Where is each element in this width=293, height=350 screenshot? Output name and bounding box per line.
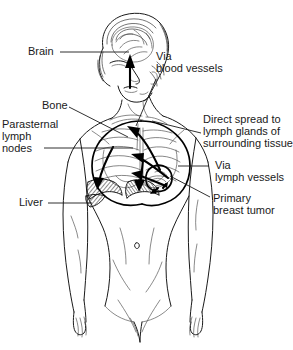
label-primary-tumor-line2: breast tumor — [213, 205, 275, 217]
label-primary-tumor-line1: Primary — [213, 193, 251, 205]
label-direct-spread-line2: lymph glands of — [203, 126, 280, 138]
label-via-blood-vessels-line1: Via — [156, 51, 172, 63]
leader-direct-spread — [152, 121, 201, 133]
label-parasternal-line3: nodes — [2, 143, 32, 155]
label-parasternal-line2: lymph — [2, 131, 31, 143]
torso-group — [87, 196, 189, 342]
label-bone: Bone — [42, 100, 68, 112]
label-direct-spread-line3: surrounding tissue — [203, 138, 293, 150]
label-via-lymph-line2: lymph vessels — [215, 172, 284, 184]
breast-cancer-spread-diagram: Brain Via blood vessels Bone Parasternal… — [0, 0, 293, 350]
label-via-blood-vessels-line2: blood vessels — [156, 63, 223, 75]
label-direct-spread-line1: Direct spread to — [203, 114, 281, 126]
leader-bone — [69, 107, 128, 137]
label-brain: Brain — [28, 46, 54, 58]
label-via-lymph-line1: Via — [215, 160, 231, 172]
label-parasternal-line1: Parasternal — [2, 119, 58, 131]
spread-boundary-oval — [92, 121, 190, 205]
label-liver: Liver — [19, 197, 43, 209]
